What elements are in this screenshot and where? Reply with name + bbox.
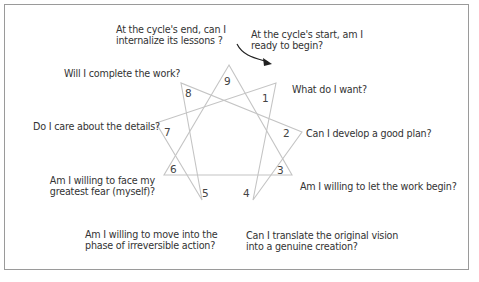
label-7: Do I care about the details?: [33, 121, 160, 132]
point-1: 1: [262, 92, 269, 104]
point-8: 8: [185, 87, 192, 99]
point-9: 9: [224, 75, 231, 87]
enneagram-figure: [0, 0, 479, 282]
point-6: 6: [170, 163, 177, 175]
point-2: 2: [283, 127, 290, 139]
label-5: Am I willing to move into the phase of i…: [85, 229, 215, 251]
label-3: Am I willing to let the work begin?: [300, 181, 457, 192]
point-5: 5: [202, 187, 209, 199]
arrowhead-icon: [263, 58, 272, 66]
label-2: Can I develop a good plan?: [306, 128, 431, 139]
label-6: Am I willing to face my greatest fear (m…: [40, 175, 155, 197]
point-3: 3: [277, 164, 284, 176]
point-4: 4: [243, 187, 250, 199]
hexad: [156, 83, 302, 200]
label-4: Can I translate the original vision into…: [246, 230, 398, 252]
label-9: At the cycle's end, can I internalize it…: [116, 24, 216, 46]
label-1: What do I want?: [292, 84, 367, 95]
label-start: At the cycle's start, am I ready to begi…: [251, 29, 363, 51]
label-8: Will I complete the work?: [64, 68, 180, 79]
point-7: 7: [164, 126, 171, 138]
